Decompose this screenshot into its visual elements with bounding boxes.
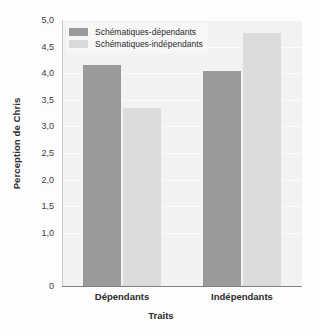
y-axis-line [62, 20, 63, 287]
legend-item: Schématiques-indépendants [69, 38, 203, 49]
bar-chart: Perception de Chris 5,04,54,03,53,02,52,… [0, 0, 322, 335]
y-tick-label: 4,5 [41, 42, 54, 52]
legend-swatch [69, 40, 88, 48]
y-axis-title: Perception de Chris [8, 0, 26, 286]
y-tick-label: 2,5 [41, 148, 54, 158]
x-tick-label: Indépendants [211, 291, 273, 302]
y-tick-label: 0 [49, 281, 54, 291]
bar [123, 108, 161, 286]
y-tick-label: 2,0 [41, 175, 54, 185]
bar [203, 71, 241, 286]
bar-series-container [62, 20, 302, 286]
legend-swatch [69, 28, 88, 36]
y-tick-label: 1,5 [41, 201, 54, 211]
x-tick-label: Dépendants [95, 291, 149, 302]
y-tick-label: 3,5 [41, 95, 54, 105]
y-tick-label: 1,0 [41, 228, 54, 238]
bar [243, 33, 281, 286]
y-axis-tick-labels: 5,04,54,03,53,02,52,01,51,00 [26, 0, 58, 300]
legend: Schématiques-dépendantsSchématiques-indé… [66, 23, 208, 53]
y-axis-title-text: Perception de Chris [12, 97, 23, 189]
y-tick-label: 5,0 [41, 15, 54, 25]
y-tick-label: 3,0 [41, 121, 54, 131]
legend-label: Schématiques-indépendants [95, 39, 203, 49]
plot-area [62, 20, 302, 286]
x-axis-title: Traits [0, 310, 322, 321]
legend-item: Schématiques-dépendants [69, 26, 203, 37]
bar [83, 65, 121, 286]
x-axis-line [62, 286, 302, 287]
legend-label: Schématiques-dépendants [95, 27, 196, 37]
y-tick-label: 4,0 [41, 68, 54, 78]
